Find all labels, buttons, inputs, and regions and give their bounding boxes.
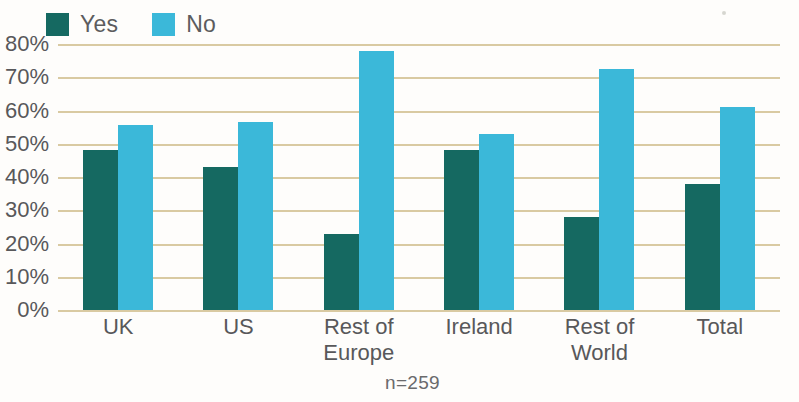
sample-size-text: n=259 [385,372,440,393]
bar-yes[interactable] [324,234,359,310]
bar-no[interactable] [720,107,755,310]
legend-entry-no[interactable]: No [152,13,216,36]
y-axis-tick-label: 50% [5,132,49,154]
x-axis-tick-label: Rest of World [539,314,659,365]
scan-artifact-speck [722,11,726,15]
chart-legend: YesNo [46,9,216,39]
bar-no[interactable] [359,51,394,310]
y-axis-tick-label: 0% [17,299,49,321]
legend-label: Yes [80,13,118,36]
y-axis-tick-label: 80% [5,33,49,55]
bar-yes[interactable] [444,150,479,310]
gridline [58,310,780,312]
legend-entry-yes[interactable]: Yes [46,13,118,36]
x-axis-tick-label: UK [58,314,178,365]
bar-no[interactable] [479,134,514,310]
plot-area: 0%10%20%30%40%50%60%70%80% [58,44,780,310]
bar-yes[interactable] [685,184,720,310]
bar-group [419,44,539,310]
bar-yes[interactable] [83,150,118,310]
sample-size-note: n=259 [0,372,799,394]
bar-group [58,44,178,310]
y-axis-tick-label: 60% [5,99,49,121]
chart-screenshot: YesNo 0%10%20%30%40%50%60%70%80% UKUSRes… [0,0,799,402]
bar-group [178,44,298,310]
x-axis-tick-label: Rest of Europe [299,314,419,365]
y-axis-tick-label: 40% [5,166,49,188]
x-axis-tick-label: US [178,314,298,365]
x-axis-labels: UKUSRest of EuropeIrelandRest of WorldTo… [58,314,780,365]
bar-no[interactable] [238,122,273,310]
y-axis-tick-label: 10% [5,265,49,287]
y-axis-tick-label: 20% [5,232,49,254]
bar-group [660,44,780,310]
bar-yes[interactable] [203,167,238,310]
bar-yes[interactable] [564,217,599,310]
bar-groups [58,44,780,310]
legend-label: No [186,13,216,36]
square-swatch-icon [46,13,69,36]
bar-group [299,44,419,310]
bar-no[interactable] [599,69,634,310]
x-axis-tick-label: Total [660,314,780,365]
y-axis-tick-label: 70% [5,66,49,88]
bar-group [539,44,659,310]
square-swatch-icon [152,13,175,36]
y-axis-tick-label: 30% [5,199,49,221]
bar-no[interactable] [118,125,153,310]
x-axis-tick-label: Ireland [419,314,539,365]
